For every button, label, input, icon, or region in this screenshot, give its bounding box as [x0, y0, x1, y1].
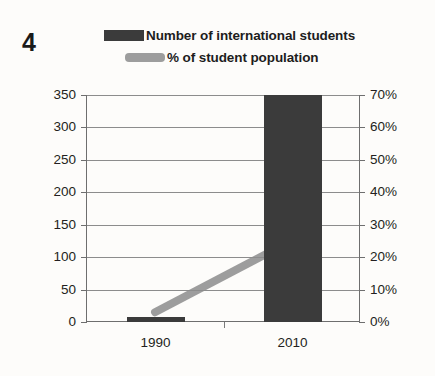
right-axis-tick	[359, 160, 365, 161]
right-axis-tick	[359, 127, 365, 128]
left-axis-tick	[81, 257, 87, 258]
left-axis-tick	[81, 127, 87, 128]
left-axis-tick	[81, 192, 87, 193]
right-axis-label: 40%	[370, 185, 397, 199]
plot-area: 35030025020015010050070%60%50%40%30%20%1…	[86, 95, 360, 322]
right-axis-label: 60%	[370, 120, 397, 134]
x-axis-label-1990: 1990	[140, 335, 170, 350]
legend-label-line: % of student population	[167, 50, 318, 65]
left-axis-label: 200	[53, 185, 76, 199]
legend-item-line: % of student population	[104, 46, 414, 68]
right-axis-label: 50%	[370, 153, 397, 167]
bar-swatch-icon	[104, 30, 144, 41]
legend-label-bars: Number of international students	[146, 28, 355, 43]
chart-legend: Number of international students % of st…	[104, 24, 414, 68]
left-axis-tick	[81, 225, 87, 226]
right-axis-tick	[359, 192, 365, 193]
x-axis-label-2010: 2010	[277, 335, 307, 350]
x-axis-divider-tick	[224, 322, 225, 328]
right-axis-label: 10%	[370, 283, 397, 297]
legend-item-bars: Number of international students	[104, 24, 414, 46]
left-axis-tick	[81, 95, 87, 96]
right-axis-tick	[359, 290, 365, 291]
right-axis-label: 0%	[370, 315, 390, 329]
left-axis-tick	[81, 160, 87, 161]
left-axis-label: 250	[53, 153, 76, 167]
right-axis-tick	[359, 322, 365, 323]
left-axis-tick	[81, 290, 87, 291]
left-axis-label: 50	[61, 283, 76, 297]
line-swatch-icon	[125, 53, 165, 62]
right-axis-label: 20%	[370, 250, 397, 264]
bar-1990	[127, 317, 185, 322]
question-number: 4	[22, 28, 35, 57]
right-axis-label: 30%	[370, 218, 397, 232]
right-axis-tick	[359, 257, 365, 258]
left-axis-label: 0	[68, 315, 76, 329]
chart-page: 4 Number of international students % of …	[0, 0, 435, 376]
left-axis-label: 150	[53, 218, 76, 232]
left-axis-label: 300	[53, 120, 76, 134]
left-axis-tick	[81, 322, 87, 323]
left-axis-label: 100	[53, 250, 76, 264]
left-axis-label: 350	[53, 88, 76, 102]
bar-2010	[264, 95, 322, 322]
right-axis-tick	[359, 225, 365, 226]
right-axis-label: 70%	[370, 88, 397, 102]
right-axis-tick	[359, 95, 365, 96]
